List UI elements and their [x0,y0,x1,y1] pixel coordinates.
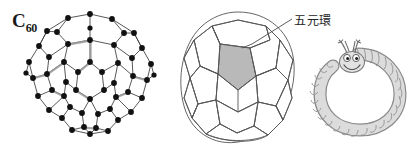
nanotube-caterpillar [310,40,402,137]
pentagon-ring-annotation: 五元環 [294,11,332,28]
c60-label: C60 [12,10,37,36]
c60-label-letter: C [12,10,26,31]
figure-vector-layer [0,0,420,158]
c60-atom-vertices [23,11,156,137]
c60-ball-and-stick-model [23,11,156,137]
truncated-icosahedron-model [181,12,294,143]
c60-label-subscript: 60 [26,21,37,35]
figure-canvas: C60 五元環 [0,0,420,158]
